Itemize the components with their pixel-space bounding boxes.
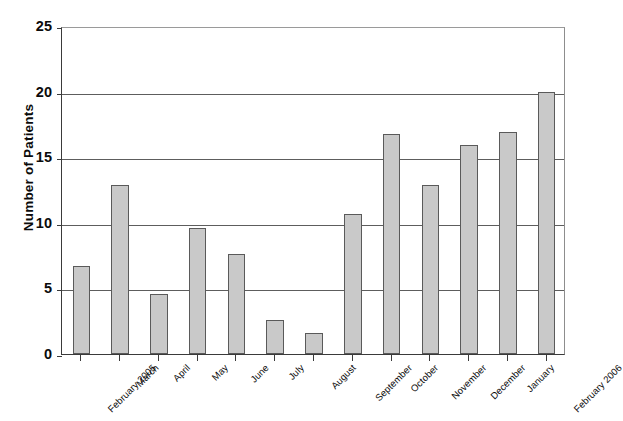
bar-march <box>111 185 129 354</box>
y-tick-label-0: 0 <box>8 347 52 362</box>
y-tick-label-10: 10 <box>8 216 52 231</box>
bar-may <box>189 228 207 354</box>
y-tick-label-25: 25 <box>8 19 52 34</box>
x-tick-label-text: August <box>329 362 358 391</box>
bars-series <box>62 28 564 354</box>
x-tick-mark <box>391 355 392 361</box>
y-tick-label-5: 5 <box>8 281 52 296</box>
x-tick-label-text: March <box>134 362 161 389</box>
bar-july <box>266 320 284 354</box>
x-tick-mark <box>119 355 120 361</box>
bar-february-2005 <box>73 266 91 354</box>
x-tick-label-october: October <box>408 362 440 394</box>
y-tick-label-20: 20 <box>8 85 52 100</box>
x-tick-label-text: December <box>488 362 527 401</box>
x-tick-mark <box>352 355 353 361</box>
x-tick-label-july: July <box>286 362 306 382</box>
y-tick-mark <box>57 356 62 357</box>
x-tick-mark <box>235 355 236 361</box>
x-tick-mark <box>468 355 469 361</box>
x-tick-label-november: November <box>449 362 488 401</box>
x-tick-mark <box>80 355 81 361</box>
x-tick-label-june: June <box>249 362 272 385</box>
x-tick-label-text: January <box>524 362 556 394</box>
x-tick-label-text: April <box>171 362 193 384</box>
x-tick-label-text: July <box>286 362 306 382</box>
bar-november <box>422 185 440 354</box>
x-tick-mark <box>274 355 275 361</box>
x-tick-label-march: March <box>134 362 161 389</box>
x-tick-label-september: September <box>373 362 414 403</box>
bar-december <box>460 145 478 354</box>
x-tick-mark <box>546 355 547 361</box>
x-tick-mark <box>313 355 314 361</box>
x-tick-label-january: January <box>524 362 556 394</box>
x-tick-label-text: February 2006 <box>571 362 623 414</box>
x-tick-label-may: May <box>209 362 230 383</box>
bar-september <box>344 214 362 354</box>
x-tick-label-text: May <box>209 362 230 383</box>
x-tick-label-text: November <box>449 362 488 401</box>
bar-august <box>305 333 323 354</box>
x-tick-label-april: April <box>171 362 193 384</box>
y-axis-tick-labels: 0510152025 <box>0 0 52 421</box>
y-tick-label-15: 15 <box>8 150 52 165</box>
bar-april <box>150 294 168 354</box>
bar-february-2006 <box>538 92 556 354</box>
x-tick-label-february-2006: February 2006 <box>571 362 623 414</box>
x-tick-label-august: August <box>329 362 358 391</box>
x-tick-label-text: October <box>408 362 440 394</box>
plot-area <box>61 27 565 355</box>
bar-june <box>228 254 246 354</box>
bar-january <box>499 132 517 354</box>
x-tick-label-text: June <box>249 362 272 385</box>
x-tick-mark <box>197 355 198 361</box>
x-tick-mark <box>507 355 508 361</box>
x-tick-mark <box>158 355 159 361</box>
x-tick-label-december: December <box>488 362 527 401</box>
x-tick-mark <box>429 355 430 361</box>
x-tick-label-text: September <box>373 362 414 403</box>
bar-october <box>383 134 401 354</box>
